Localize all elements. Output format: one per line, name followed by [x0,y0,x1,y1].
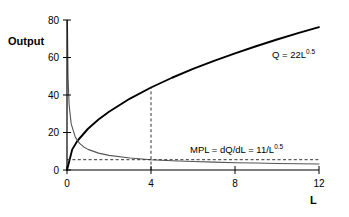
x-axis-title: L [310,194,317,206]
y-tick-label: 40 [48,90,60,101]
production-function-chart: 020406080 04812 Output L Q = 22L0.5MPL =… [0,0,349,217]
production-function-label-exponent: 0.5 [306,48,315,55]
mpl-label-exponent: 0.5 [274,143,283,150]
y-tick-label: 60 [48,52,60,63]
x-tick-label: 8 [232,178,238,189]
x-tick-label: 4 [148,178,154,189]
chart-canvas: 020406080 04812 Output L Q = 22L0.5MPL =… [0,0,349,217]
mpl-label: MPL = dQ/dL = 11/L0.5 [190,143,284,155]
y-tick-label: 20 [48,127,60,138]
y-tick-label: 80 [48,15,60,26]
x-tick-label: 12 [313,178,325,189]
mpl-label-base: MPL = dQ/dL = 11/L [190,144,274,155]
x-tick-label: 0 [64,178,70,189]
y-tick-label: 0 [53,165,59,176]
production-function-label-base: Q = 22L [272,49,306,60]
y-axis-title: Output [8,35,44,47]
